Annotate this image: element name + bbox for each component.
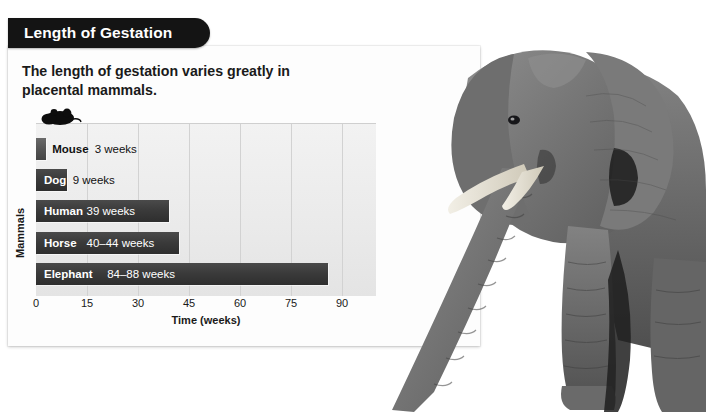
y-axis-title: Mammals [14,208,26,258]
bar-row[interactable]: Dog9 weeks [36,169,376,191]
bar-mouse[interactable] [36,138,46,160]
x-tick-45: 45 [183,297,195,309]
x-tick-60: 60 [234,297,246,309]
bar-value-human: 39 weeks [87,200,136,222]
x-tick-90: 90 [336,297,348,309]
x-tick-30: 30 [132,297,144,309]
title-banner: Length of Gestation [8,18,210,48]
x-tick-75: 75 [285,297,297,309]
bar-label-human: Human [44,200,83,222]
bar-row[interactable]: Horse40–44 weeks [36,232,376,254]
plot-area: Mouse3 weeksDog9 weeksHuman39 weeksHorse… [36,123,376,296]
bar-row[interactable]: Mouse3 weeks [36,138,376,160]
bar-row[interactable]: Elephant84–88 weeks [36,263,376,285]
subtitle-text: The length of gestation varies greatly i… [22,62,352,99]
x-axis-title: Time (weeks) [36,314,376,326]
page-title: Length of Gestation [24,18,172,48]
x-axis: 0153045607590 [36,297,396,313]
bar-value-dog: 9 weeks [73,169,115,191]
bar-label-mouse: Mouse [52,138,88,160]
bar-value-elephant: 84–88 weeks [107,263,175,285]
x-tick-0: 0 [33,297,39,309]
bar-label-dog: Dog [44,169,66,191]
gestation-bar-chart: Mammals Mouse3 weeksDog9 weeksHuman39 we… [8,108,408,333]
mouse-silhouette-icon [40,106,82,126]
bar-label-horse: Horse [44,232,77,254]
bar-label-elephant: Elephant [44,263,93,285]
bar-value-horse: 40–44 weeks [87,232,155,254]
bar-value-mouse: 3 weeks [95,138,137,160]
x-tick-15: 15 [81,297,93,309]
bar-row[interactable]: Human39 weeks [36,200,376,222]
